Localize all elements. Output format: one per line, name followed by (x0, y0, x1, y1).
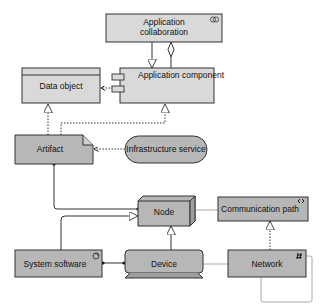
app-collaboration-label-2: collaboration (140, 27, 188, 37)
assignment-artifact-node[interactable] (54, 164, 138, 209)
realization-artifact-component[interactable] (61, 104, 165, 135)
artifact-label: Artifact (37, 144, 64, 154)
network[interactable]: Network (228, 250, 306, 277)
specialization-syssoftware-node[interactable] (61, 216, 138, 250)
network-label: Network (251, 259, 283, 269)
node[interactable]: Node (138, 196, 195, 226)
component-icon (112, 86, 124, 92)
communication-path[interactable]: Communication path (218, 197, 308, 221)
artifact[interactable]: Artifact (15, 135, 93, 164)
archimate-diagram: Application collaboration Application co… (0, 0, 325, 304)
application-component[interactable]: Application component (112, 68, 225, 103)
application-collaboration[interactable]: Application collaboration (106, 14, 222, 42)
device-label: Device (151, 259, 177, 269)
system-software[interactable]: System software (15, 250, 102, 277)
folded-corner-icon (83, 135, 93, 145)
device[interactable]: Device (125, 250, 203, 278)
node-label: Node (154, 207, 175, 217)
data-object-label: Data object (40, 81, 84, 91)
infrastructure-service[interactable]: Infrastructure service (125, 136, 207, 163)
data-object[interactable]: Data object (22, 68, 100, 103)
component-icon (112, 74, 124, 80)
app-collaboration-label-1: Application (143, 17, 185, 27)
communication-path-label: Communication path (221, 204, 299, 214)
app-component-label: Application component (138, 70, 225, 80)
infrastructure-service-label: Infrastructure service (126, 144, 206, 154)
device-stand-icon (125, 273, 203, 278)
aggregation-diamond-icon (168, 42, 174, 57)
system-software-label: System software (24, 259, 87, 269)
